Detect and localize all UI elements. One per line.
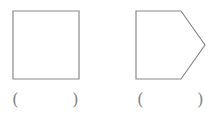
pentagon-shape bbox=[136, 11, 205, 79]
answer-1-open-paren: ( bbox=[12, 89, 19, 109]
answer-1-close-paren: ) bbox=[72, 89, 79, 109]
answer-2-open-paren: ( bbox=[137, 89, 144, 109]
square-shape bbox=[13, 11, 79, 79]
shapes-diagram bbox=[0, 0, 213, 114]
answer-2-close-paren: ) bbox=[197, 89, 204, 109]
